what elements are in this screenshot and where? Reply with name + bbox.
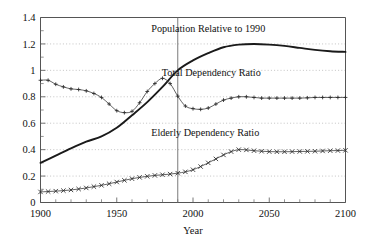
x-tick-label: 2100	[335, 208, 356, 219]
x-axis-title: Year	[183, 225, 203, 236]
y-tick-label: 1	[30, 65, 35, 76]
y-tick-label: 0.6	[22, 118, 35, 129]
population-dependency-line-chart: 19001950200020502100 00.20.40.60.811.21.…	[0, 0, 370, 246]
chart-container: 19001950200020502100 00.20.40.60.811.21.…	[0, 0, 370, 246]
annotation-edr: Elderly Dependency Ratio	[151, 127, 259, 138]
y-tick-label: 1.2	[22, 39, 35, 50]
y-tick-label: 1.4	[22, 12, 36, 23]
x-tick-label: 2050	[259, 208, 280, 219]
y-tick-label: 0.2	[22, 171, 35, 182]
x-tick-label: 1950	[106, 208, 127, 219]
y-tick-label: 0.4	[22, 144, 36, 155]
annotation-pop: Population Relative to 1990	[151, 23, 265, 34]
x-tick-label: 1900	[30, 208, 51, 219]
x-tick-label: 2000	[183, 208, 204, 219]
y-tick-label: 0	[30, 197, 35, 208]
annotation-tdr: Total Dependency Ratio	[162, 67, 261, 78]
y-tick-label: 0.8	[22, 91, 35, 102]
